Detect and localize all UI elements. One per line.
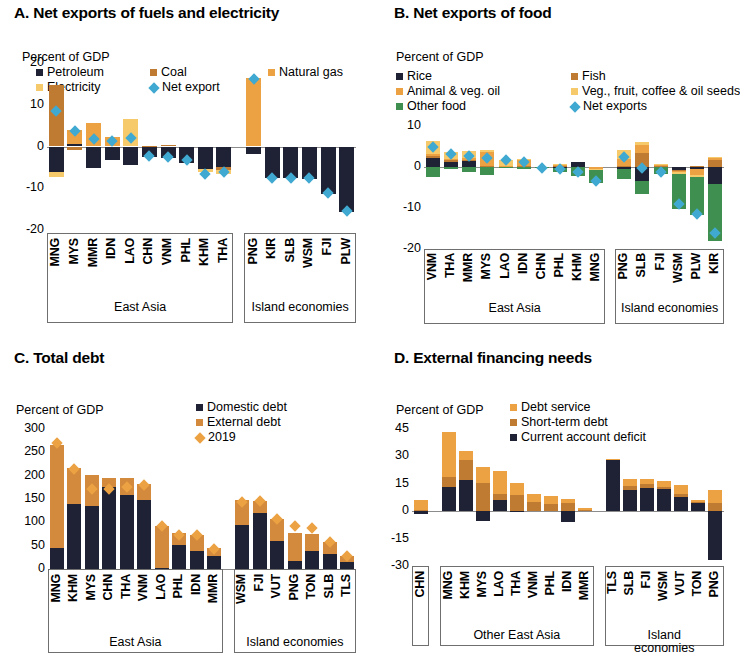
bar-segment-short-term-debt	[561, 503, 575, 511]
bar-segment-petroleum	[198, 147, 213, 169]
bar-segment-coal	[161, 145, 176, 147]
bar-segment-fish	[708, 160, 722, 167]
bar-segment-other-food	[499, 167, 513, 168]
bar-segment-fish	[444, 160, 458, 161]
bar-segment-domestic-debt	[305, 551, 319, 569]
bar-segment-short-term-debt	[510, 495, 524, 511]
y-axis-tick-10: 10	[371, 118, 421, 132]
group-box-g0	[412, 566, 429, 646]
bar-segment-fish	[690, 166, 704, 167]
panel-b-plot: -20-10010VNMTHAMMRMYSLAOIDNCHNPHLKHMMNGP…	[380, 0, 724, 330]
bar-segment-short-term-debt	[657, 487, 671, 489]
bar-segment-external-debt	[288, 533, 302, 561]
bar-segment-fish	[426, 156, 440, 159]
bar-segment-petroleum	[339, 147, 354, 212]
bar-segment-petroleum	[49, 147, 64, 173]
bar-SLB	[635, 0, 649, 127]
bar-IDN	[190, 345, 204, 489]
bar-MYS	[476, 345, 490, 486]
bar-PNG	[708, 345, 722, 486]
y-axis-tick-100: 100	[0, 514, 45, 528]
bar-segment-current-account-deficit	[561, 511, 575, 522]
bar-segment-current-account-deficit	[674, 497, 688, 511]
bar-segment-debt-service	[476, 467, 490, 483]
bar-segment-domestic-debt	[270, 541, 284, 569]
bar-VUT	[674, 345, 688, 486]
bar-segment-animal-veg-oil	[635, 145, 649, 153]
bar-WSM	[672, 0, 686, 127]
bar-segment-domestic-debt	[137, 500, 151, 569]
bar-segment-petroleum	[216, 147, 231, 168]
bar-segment-domestic-debt	[102, 487, 116, 569]
panel-c-total-debt: C. Total debt Percent of GDP Domestic de…	[0, 345, 362, 653]
bar-segment-current-account-deficit	[691, 503, 705, 511]
y-axis-tick-30: 30	[359, 448, 409, 462]
bar-segment-short-term-debt	[691, 502, 705, 503]
y-axis-tick-20: 20	[0, 55, 44, 69]
bar-segment-short-term-debt	[640, 484, 654, 488]
panel-a-net-exports-fuels: A. Net exports of fuels and electricity …	[0, 0, 362, 330]
y-axis-tick--15: -15	[359, 531, 409, 545]
y-axis-tick--20: -20	[371, 241, 421, 255]
bar-segment-external-debt	[50, 445, 64, 547]
bar-SLB	[283, 0, 298, 171]
marker-2019-TON	[307, 523, 318, 534]
bar-segment-short-term-debt	[476, 483, 490, 511]
bar-MMR	[86, 0, 101, 171]
bar-FJI	[253, 345, 267, 489]
bar-WSM	[657, 345, 671, 486]
bar-VNM	[137, 345, 151, 489]
marker-net-exports-CHN	[536, 162, 547, 173]
bar-segment-petroleum	[105, 147, 120, 160]
marker-2019-PNG	[289, 520, 300, 531]
group-label-island-economies: economies	[605, 641, 724, 653]
group-label-island-economies: Island	[605, 628, 724, 642]
bar-segment-other-food	[635, 181, 649, 194]
bar-segment-other-food	[426, 167, 440, 177]
bar-segment-other-food	[444, 167, 458, 169]
bar-SLB	[323, 345, 337, 489]
bar-segment-domestic-debt	[340, 562, 354, 569]
group-label-east-asia: East Asia	[48, 635, 223, 649]
panel-d-plot: -30-150153045CHNMNGKHMMYSLAOTHAVNMPHLIDN…	[380, 345, 724, 653]
y-axis-tick-150: 150	[0, 491, 45, 505]
bar-MMR	[462, 0, 476, 127]
bar-segment-debt-service	[544, 496, 558, 504]
bar-segment-current-account-deficit	[657, 489, 671, 511]
bar-segment-fish	[617, 166, 631, 167]
bar-CHN	[102, 345, 116, 489]
y-axis-tick-0: 0	[359, 503, 409, 517]
bar-MYS	[85, 345, 99, 489]
bar-segment-current-account-deficit	[414, 511, 428, 514]
bar-segment-debt-service	[674, 485, 688, 494]
bar-segment-coal	[67, 147, 82, 151]
panel-c-plot: 050100150200250300MNGKHMMYSCHNTHAVNMLAOP…	[0, 345, 362, 653]
bar-PHL	[172, 345, 186, 489]
bar-segment-veg-fruit-coffee-oil-seeds	[635, 142, 649, 145]
bar-segment-debt-service	[623, 479, 637, 485]
bar-FJI	[321, 0, 336, 171]
bar-segment-debt-service	[657, 481, 671, 488]
y-axis-tick--10: -10	[371, 200, 421, 214]
bar-segment-electricity	[49, 172, 64, 177]
bar-THA	[216, 0, 231, 171]
bar-KIR	[265, 0, 280, 171]
bar-segment-external-debt	[305, 534, 319, 551]
bar-FJI	[640, 345, 654, 486]
bar-segment-short-term-debt	[442, 477, 456, 487]
bar-LAO	[155, 345, 169, 489]
bar-SLB	[623, 345, 637, 486]
bar-segment-other-food	[462, 167, 476, 172]
bar-IDN	[561, 345, 575, 486]
y-axis-tick--10: -10	[0, 180, 44, 194]
y-axis-tick-200: 200	[0, 468, 45, 482]
bar-segment-domestic-debt	[85, 506, 99, 569]
bar-VNM	[527, 345, 541, 486]
bar-PLW	[690, 0, 704, 127]
bar-KHM	[571, 0, 585, 127]
bar-segment-debt-service	[691, 500, 705, 503]
bar-segment-debt-service	[640, 479, 654, 484]
bar-segment-domestic-debt	[120, 495, 134, 569]
bar-VNM	[426, 0, 440, 127]
bar-segment-short-term-debt	[674, 494, 688, 497]
